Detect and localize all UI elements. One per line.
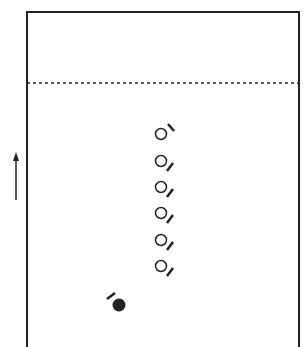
player-open	[156, 261, 174, 277]
field-frame	[27, 12, 299, 347]
player-open	[156, 182, 174, 198]
player-open	[156, 208, 174, 224]
open-players	[156, 124, 175, 276]
arrow-head-icon	[13, 152, 19, 161]
facing-tick	[167, 215, 173, 223]
facing-tick	[168, 124, 174, 131]
facing-tick	[167, 268, 173, 276]
facing-tick	[107, 293, 115, 299]
player-circle-icon	[156, 235, 167, 246]
player-open	[156, 235, 174, 251]
player-circle-icon	[156, 261, 167, 272]
player-filled-icon	[113, 299, 126, 312]
player-circle-icon	[156, 182, 167, 193]
direction-arrow-icon	[13, 152, 19, 200]
player-circle-icon	[156, 208, 167, 219]
player-circle-icon	[156, 156, 167, 167]
frame-outline	[27, 12, 299, 347]
player-open	[156, 124, 175, 140]
player-open	[156, 156, 174, 172]
player-circle-icon	[156, 129, 167, 140]
facing-tick	[167, 242, 173, 250]
facing-tick	[167, 189, 173, 197]
facing-tick	[167, 163, 173, 171]
diagram-canvas	[0, 0, 308, 347]
filled-player	[107, 293, 126, 312]
